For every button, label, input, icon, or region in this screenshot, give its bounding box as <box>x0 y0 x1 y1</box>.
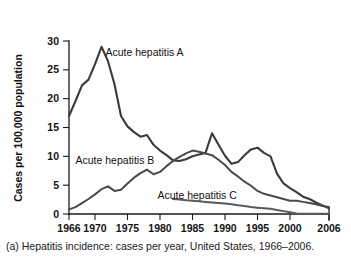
annotation-label-3: Acute hepatitis C <box>157 189 237 201</box>
series-line-1 <box>69 47 329 208</box>
figure-caption: (a) Hepatitis incidence: cases per year,… <box>6 240 351 252</box>
hepatitis-incidence-figure: 051015202530 196619701975198019851990199… <box>0 0 351 263</box>
y-tick-label: 5 <box>53 179 59 191</box>
annotation-label-1: Acute hepatitis A <box>105 46 183 58</box>
y-tick-label: 15 <box>47 121 59 133</box>
y-tick-label: 20 <box>47 92 59 104</box>
series-line-3 <box>173 199 329 214</box>
x-tick-label: 2006 <box>317 222 341 234</box>
x-tick-label: 1970 <box>83 222 107 234</box>
y-axis-title: Cases per 100,000 population <box>12 54 24 202</box>
x-axis-ticks: 196619701975198019851990199520002006 <box>57 214 341 234</box>
line-chart: 051015202530 196619701975198019851990199… <box>0 0 351 263</box>
y-axis-ticks: 051015202530 <box>47 35 69 220</box>
x-tick-label: 1966 <box>57 222 81 234</box>
x-tick-label: 1990 <box>213 222 237 234</box>
x-tick-label: 1980 <box>148 222 172 234</box>
x-tick-label: 1985 <box>181 222 205 234</box>
y-tick-label: 0 <box>53 208 59 220</box>
series-annotations-group: Acute hepatitis AAcute hepatitis BAcute … <box>76 46 238 201</box>
x-tick-label: 2000 <box>278 222 302 234</box>
x-tick-label: 1975 <box>116 222 140 234</box>
y-tick-label: 30 <box>47 35 59 47</box>
y-tick-label: 10 <box>47 150 59 162</box>
annotation-label-2: Acute hepatitis B <box>76 154 155 166</box>
y-tick-label: 25 <box>47 63 59 75</box>
x-tick-label: 1995 <box>246 222 270 234</box>
